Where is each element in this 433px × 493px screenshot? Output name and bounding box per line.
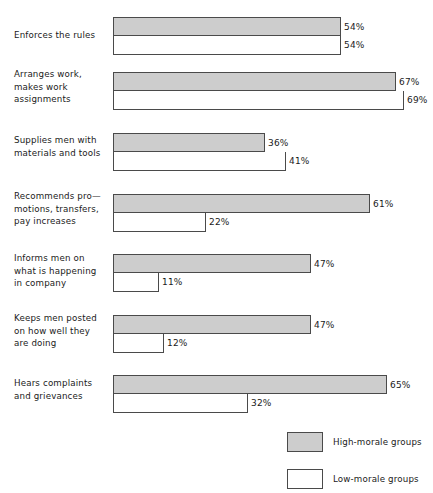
bar-high-morale: 65% [113,375,387,394]
bar-high-morale: 61% [113,194,370,213]
legend-swatch-low-morale [287,469,323,489]
bar-value-low-morale: 54% [344,40,365,50]
row-bar-group: 61%22% [113,194,370,232]
bar-low-morale: 11% [113,273,159,292]
bar-high-morale: 47% [113,254,311,273]
row-category-label: Informs men on what is happening in comp… [14,252,110,290]
bar-value-high-morale: 47% [314,259,335,269]
row-category-label: Recommends pro— motions, transfers, pay … [14,190,110,228]
bar-high-morale: 36% [113,133,265,152]
row-bar-group: 47%12% [113,315,311,353]
bar-low-morale: 69% [113,91,404,110]
legend-swatch-high-morale [287,432,323,452]
bar-value-high-morale: 47% [314,320,335,330]
bar-high-morale: 54% [113,17,341,36]
bar-high-morale: 67% [113,72,396,91]
row-category-label: Enforces the rules [14,29,110,42]
bar-value-high-morale: 36% [268,138,289,148]
row-bar-group: 65%32% [113,375,387,413]
bar-low-morale: 54% [113,36,341,55]
bar-value-high-morale: 54% [344,22,365,32]
bar-value-high-morale: 65% [390,380,411,390]
bar-value-low-morale: 11% [162,277,183,287]
bar-value-low-morale: 69% [407,95,428,105]
bar-low-morale: 41% [113,152,286,171]
bar-low-morale: 32% [113,394,248,413]
bar-low-morale: 12% [113,334,164,353]
row-bar-group: 36%41% [113,133,286,171]
bar-high-morale: 47% [113,315,311,334]
legend-label-high-morale: High-morale groups [333,437,422,447]
row-category-label: Keeps men posted on how well they are do… [14,312,110,350]
bar-value-low-morale: 32% [251,398,272,408]
row-bar-group: 67%69% [113,72,404,110]
row-bar-group: 54%54% [113,17,341,55]
bar-value-low-morale: 41% [289,156,310,166]
bar-low-morale: 22% [113,213,206,232]
bar-value-low-morale: 22% [209,217,230,227]
row-bar-group: 47%11% [113,254,311,292]
row-category-label: Hears complaints and grievances [14,377,110,402]
bar-value-low-morale: 12% [167,338,188,348]
bar-value-high-morale: 61% [373,199,394,209]
bar-value-high-morale: 67% [399,77,420,87]
row-category-label: Supplies men with materials and tools [14,134,110,159]
legend-label-low-morale: Low-morale groups [333,474,419,484]
row-category-label: Arranges work, makes work assignments [14,68,110,106]
